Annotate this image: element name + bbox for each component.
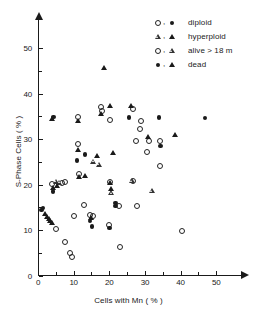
- y-tick-major: [39, 139, 43, 140]
- chart-legend: ,diploid,hyperploid,alive > 18 m,dead: [152, 16, 254, 72]
- legend-separator: ,: [163, 17, 165, 26]
- y-tick-minor: [39, 116, 42, 117]
- data-point-filled-circle: [83, 152, 88, 157]
- legend-symbols: ,: [152, 16, 186, 30]
- data-point-filled-triangle: [107, 180, 113, 185]
- data-point-open-circle: [62, 179, 68, 185]
- data-point-open-circle: [107, 117, 113, 123]
- legend-label: hyperploid: [188, 32, 226, 41]
- x-tick-label: 0: [36, 278, 40, 287]
- data-point-open-circle: [157, 163, 163, 169]
- data-point-filled-circle: [158, 144, 163, 149]
- legend-marker-filled-triangle-icon: [169, 62, 175, 67]
- data-point-filled-circle: [107, 226, 112, 231]
- data-point-filled-circle: [203, 116, 208, 121]
- data-point-open-circle: [144, 149, 150, 155]
- legend-label: diploid: [188, 18, 212, 27]
- y-tick-major: [39, 48, 43, 49]
- legend-row: ,alive > 18 m: [152, 44, 254, 58]
- data-point-open-circle: [62, 239, 68, 245]
- data-point-filled-triangle: [101, 65, 107, 70]
- legend-row: ,dead: [152, 58, 254, 72]
- data-point-open-circle: [69, 254, 75, 260]
- data-point-open-circle: [117, 244, 123, 250]
- x-tick-minor: [198, 272, 199, 275]
- x-tick-major: [109, 271, 110, 275]
- x-tick-minor: [163, 272, 164, 275]
- data-point-open-triangle: [96, 162, 102, 167]
- data-point-filled-circle: [157, 115, 162, 120]
- data-point-filled-circle: [75, 158, 80, 163]
- y-tick-label: 0: [14, 271, 32, 280]
- data-point-filled-circle: [51, 189, 56, 194]
- data-point-open-circle: [134, 203, 140, 209]
- data-point-filled-triangle: [107, 103, 113, 108]
- data-point-filled-triangle: [110, 150, 116, 155]
- data-point-filled-triangle: [75, 118, 81, 123]
- data-point-filled-triangle: [145, 134, 151, 139]
- data-point-filled-triangle: [94, 153, 100, 158]
- legend-marker-filled-circle-icon: [156, 63, 161, 68]
- scatter-plot-figure: 01020304050 01020304050 Cells with Mn ( …: [0, 0, 257, 315]
- legend-separator: ,: [163, 45, 165, 54]
- y-tick-minor: [39, 162, 42, 163]
- data-point-filled-triangle: [88, 215, 94, 220]
- legend-marker-open-circle-icon: [155, 48, 161, 54]
- y-axis-title: S-Phase Cells ( % ): [14, 92, 23, 212]
- legend-label: alive > 18 m: [188, 46, 233, 55]
- data-point-open-triangle: [129, 178, 135, 183]
- y-tick-major: [39, 185, 43, 186]
- data-point-open-circle: [138, 118, 144, 124]
- x-tick-minor: [127, 272, 128, 275]
- y-tick-label: 10: [14, 226, 32, 235]
- data-point-filled-circle: [113, 204, 118, 209]
- y-tick-label: 50: [14, 44, 32, 53]
- y-axis-arrow-icon: [35, 12, 43, 20]
- data-point-filled-circle: [90, 224, 95, 229]
- x-axis-title: Cells with Mn ( % ): [0, 296, 257, 305]
- x-tick-minor: [91, 272, 92, 275]
- data-point-filled-triangle: [49, 220, 55, 225]
- y-axis-line: [38, 19, 39, 276]
- data-point-filled-circle: [127, 115, 132, 120]
- x-tick-label: 50: [212, 278, 221, 287]
- x-axis-arrow-icon: [241, 271, 249, 279]
- legend-marker-open-triangle-icon: [169, 48, 175, 53]
- y-tick-minor: [39, 71, 42, 72]
- x-tick-major: [181, 271, 182, 275]
- data-point-filled-triangle: [54, 183, 60, 188]
- data-point-open-circle: [53, 226, 59, 232]
- data-point-filled-triangle: [49, 116, 55, 121]
- legend-row: ,hyperploid: [152, 30, 254, 44]
- x-tick-major: [145, 271, 146, 275]
- x-tick-major: [74, 271, 75, 275]
- data-point-open-triangle: [149, 188, 155, 193]
- data-point-filled-triangle: [172, 132, 178, 137]
- x-tick-label: 30: [141, 278, 150, 287]
- data-point-filled-triangle: [75, 147, 81, 152]
- data-point-filled-triangle: [128, 103, 134, 108]
- legend-symbols: ,: [152, 30, 186, 44]
- y-tick-major: [39, 94, 43, 95]
- y-tick-minor: [39, 253, 42, 254]
- x-tick-major: [216, 271, 217, 275]
- x-tick-minor: [56, 272, 57, 275]
- legend-marker-filled-triangle-icon: [169, 34, 175, 39]
- data-point-filled-triangle: [82, 173, 88, 178]
- x-tick-label: 10: [69, 278, 78, 287]
- x-tick-label: 20: [105, 278, 114, 287]
- legend-marker-filled-circle-icon: [170, 21, 175, 26]
- data-point-filled-triangle: [98, 111, 104, 116]
- data-point-filled-triangle: [108, 186, 114, 191]
- legend-label: dead: [188, 60, 206, 69]
- data-point-open-circle: [133, 138, 139, 144]
- legend-row: ,diploid: [152, 16, 254, 30]
- x-tick-label: 40: [176, 278, 185, 287]
- x-axis-line: [38, 275, 243, 276]
- legend-separator: ,: [163, 31, 165, 40]
- legend-marker-open-circle-icon: [155, 20, 161, 26]
- y-tick-major: [39, 230, 43, 231]
- data-point-open-circle: [137, 126, 143, 132]
- data-point-open-circle: [71, 213, 77, 219]
- y-tick-major: [39, 276, 43, 277]
